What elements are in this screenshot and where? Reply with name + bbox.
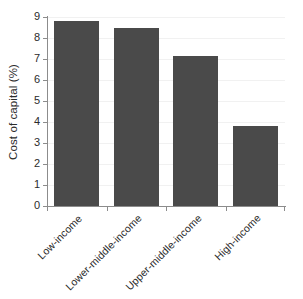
y-axis-tick-label: 3 <box>34 136 40 149</box>
y-axis-tick-label: 1 <box>34 178 40 191</box>
x-axis-category-label: Low-income <box>35 212 84 261</box>
y-axis-tick-label: 6 <box>34 73 40 86</box>
y-axis-label-text: Cost of capital (%) <box>7 64 19 160</box>
bar <box>54 21 99 206</box>
x-axis-tick-mark <box>284 207 285 211</box>
bar <box>233 126 278 206</box>
y-axis-tick-label: 9 <box>34 10 40 23</box>
x-axis-tick-mark <box>226 207 227 211</box>
x-axis-tick-mark <box>107 207 108 211</box>
bar <box>114 28 159 207</box>
y-axis-tick-label: 0 <box>34 199 40 212</box>
y-axis-label: Cost of capital (%) <box>2 17 24 206</box>
plot-area <box>47 17 285 206</box>
x-axis-tick-mark <box>47 207 48 211</box>
x-axis-tick-mark <box>166 207 167 211</box>
y-axis-tick-label: 5 <box>34 94 40 107</box>
bar-chart-figure: Cost of capital (%) 0123456789 Low-incom… <box>0 0 303 299</box>
bar <box>173 56 218 206</box>
y-axis-tick-label: 7 <box>34 52 40 65</box>
y-axis-tick-label: 8 <box>34 31 40 44</box>
y-axis-tick-label: 4 <box>34 115 40 128</box>
x-axis-category-label: High-income <box>212 212 263 263</box>
y-axis-tick-label: 2 <box>34 157 40 170</box>
